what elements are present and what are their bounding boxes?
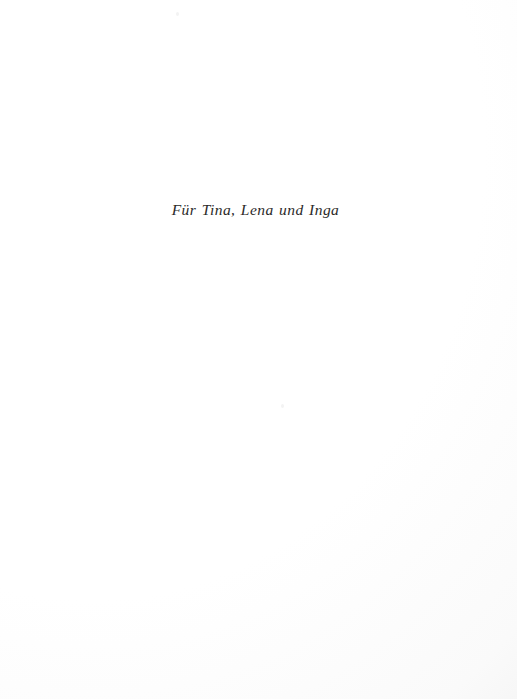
dedication-block: Für Tina, Lena und Inga [0, 200, 517, 220]
scan-speck-middle [281, 404, 284, 408]
dedication-text: Für Tina, Lena und Inga [172, 200, 340, 220]
book-page: Für Tina, Lena und Inga [0, 0, 517, 699]
scan-speck-top [176, 12, 179, 16]
page-scan-shading [0, 0, 517, 699]
